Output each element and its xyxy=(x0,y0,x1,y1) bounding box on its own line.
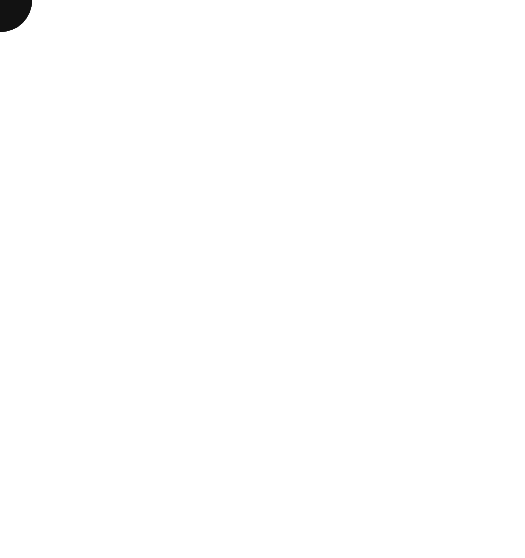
finger-dot xyxy=(0,0,32,32)
guitar-chord-diagram xyxy=(0,0,525,558)
